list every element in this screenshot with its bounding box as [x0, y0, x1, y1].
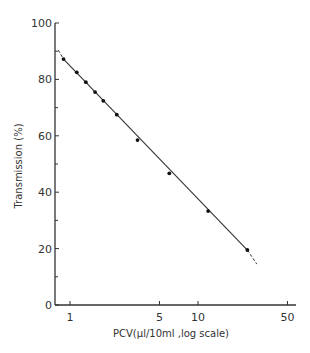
- fit-line: [58, 50, 257, 264]
- data-point: [136, 138, 140, 142]
- data-point: [206, 209, 210, 213]
- y-tick-label: 40: [38, 186, 52, 199]
- data-point: [115, 113, 119, 117]
- y-tick-label: 0: [45, 299, 52, 312]
- data-point: [93, 90, 97, 94]
- data-point: [62, 57, 66, 61]
- data-point: [84, 80, 88, 84]
- data-point: [245, 248, 249, 252]
- y-tick-label: 20: [38, 243, 52, 256]
- y-tick-label: 60: [38, 130, 52, 143]
- x-tick-label: 5: [156, 311, 163, 324]
- y-tick-label: 100: [31, 17, 52, 30]
- axes: [55, 23, 296, 305]
- fit-line-solid: [64, 59, 248, 250]
- fit-line-dashed-end: [247, 250, 256, 264]
- y-tick-label: 80: [38, 73, 52, 86]
- data-point: [75, 70, 79, 74]
- y-axis-label: Transmission (%): [13, 123, 24, 209]
- x-axis-label: PCV(μl/10ml ,log scale): [113, 328, 229, 339]
- data-point: [167, 171, 171, 175]
- x-tick-label: 1: [67, 311, 74, 324]
- x-tick-label: 50: [280, 311, 294, 324]
- data-point: [101, 99, 105, 103]
- axis-ticks: 020406080100151050: [31, 17, 294, 324]
- x-tick-label: 10: [191, 311, 205, 324]
- chart: 020406080100151050 Transmission (%) PCV(…: [0, 0, 310, 353]
